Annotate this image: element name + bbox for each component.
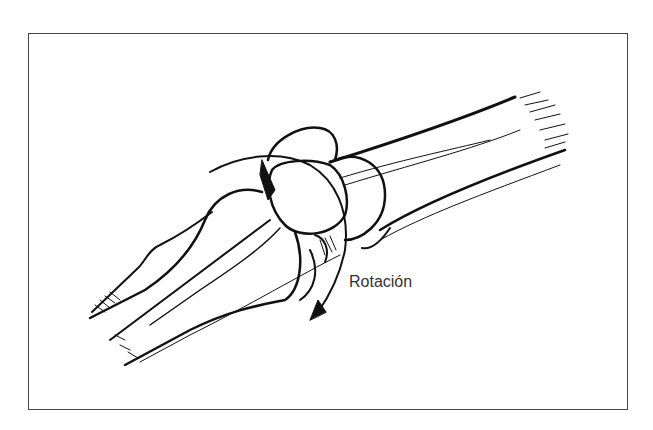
elbow-condyles: [260, 128, 385, 262]
forearm-bones: [90, 190, 340, 365]
rotation-label: Rotación: [349, 273, 412, 291]
humerus-bone: [330, 92, 568, 248]
elbow-joint-drawing: [0, 0, 653, 430]
